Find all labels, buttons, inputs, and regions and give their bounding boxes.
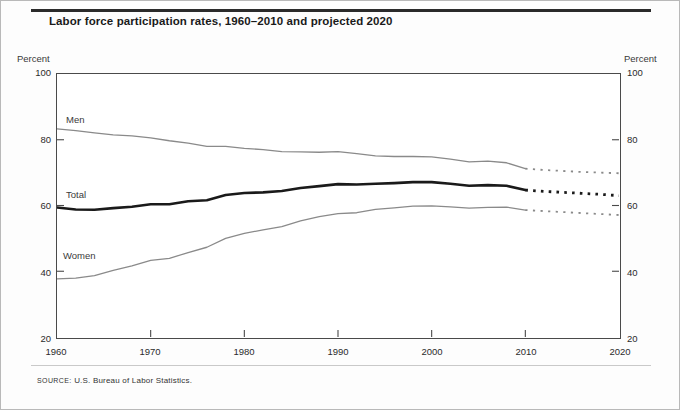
left-axis-caption: Percent — [17, 53, 50, 64]
x-axis-tick-1960: 1960 — [34, 346, 78, 357]
source-divider — [31, 365, 651, 366]
plot-area — [56, 73, 621, 339]
y-axis-tick-right-40: 40 — [627, 267, 661, 278]
x-axis-tick-1980: 1980 — [222, 346, 266, 357]
y-axis-tick-right-80: 80 — [627, 134, 661, 145]
title-divider — [31, 9, 651, 12]
y-axis-tick-right-20: 20 — [627, 333, 661, 344]
y-axis-tick-left-40: 40 — [17, 267, 51, 278]
y-axis-tick-right-60: 60 — [627, 200, 661, 211]
series-label-total: Total — [66, 189, 86, 200]
x-axis-tick-2000: 2000 — [410, 346, 454, 357]
y-axis-tick-left-100: 100 — [17, 67, 51, 78]
y-axis-tick-left-60: 60 — [17, 200, 51, 211]
figure-container: Labor force participation rates, 1960–20… — [0, 0, 680, 410]
page-title: Labor force participation rates, 1960–20… — [49, 15, 649, 27]
right-axis-caption: Percent — [624, 53, 657, 64]
source-text: U.S. Bureau of Labor Statistics. — [74, 376, 192, 385]
series-label-men: Men — [66, 114, 84, 125]
y-axis-tick-left-20: 20 — [17, 333, 51, 344]
line-chart-svg — [57, 74, 619, 337]
x-axis-tick-2020: 2020 — [598, 346, 642, 357]
x-axis-tick-1970: 1970 — [128, 346, 172, 357]
y-axis-tick-left-80: 80 — [17, 134, 51, 145]
x-axis-tick-2010: 2010 — [504, 346, 548, 357]
y-axis-tick-right-100: 100 — [627, 67, 661, 78]
x-axis-tick-1990: 1990 — [316, 346, 360, 357]
source-label: SOURCE: — [37, 377, 72, 384]
source-note: SOURCE: U.S. Bureau of Labor Statistics. — [37, 376, 192, 385]
series-label-women: Women — [63, 250, 96, 261]
